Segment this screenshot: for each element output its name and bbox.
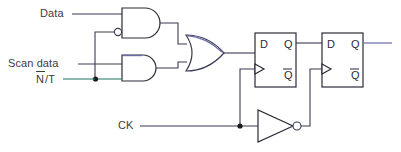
inverter-output-bubble-icon [293, 122, 301, 130]
overbar-icon [36, 71, 45, 72]
input-inversion-bubble-icon [114, 28, 121, 35]
label-nt: N /T [36, 71, 55, 85]
ff2-pin-d-label: D [327, 38, 335, 50]
label-nt-suffix: /T [45, 73, 55, 85]
label-nt-overbar-n: N [36, 71, 45, 85]
label-data: Data [40, 7, 64, 19]
inverter-clock [258, 110, 293, 142]
wire-and-scan-output [156, 62, 187, 68]
ff2-pin-qbar-label: Q [351, 69, 360, 81]
label-scan-data: Scan data [8, 57, 58, 69]
ff1-pin-q-label: Q [284, 38, 293, 50]
wire-ck-to-ff1-clock [240, 69, 255, 126]
ff1-pin-qbar-label: Q [284, 69, 293, 81]
wire-nt-to-and-bubble [95, 32, 114, 79]
and-gate-data [122, 8, 160, 38]
and-gate-scan [122, 55, 156, 81]
junction-dot-ck [237, 123, 242, 128]
ff1-pin-d-label: D [260, 38, 268, 50]
circuit-diagram: D Q Q D Q Q Data Scan data [0, 0, 401, 152]
ff2-pin-q-label: Q [351, 38, 360, 50]
circuit-svg: D Q Q D Q Q [0, 0, 401, 152]
label-ck: CK [118, 119, 133, 131]
wire-inverted-ck-to-ff2-clock [301, 69, 322, 126]
wire-and-data-output [160, 23, 187, 44]
